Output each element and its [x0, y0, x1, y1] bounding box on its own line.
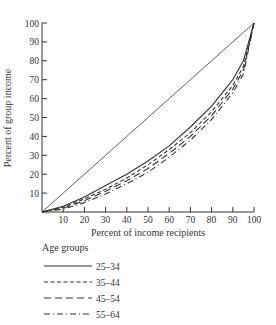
y-tick-label: 10	[30, 189, 40, 199]
legend-title: Age groups	[42, 242, 88, 253]
legend-label: 55–64	[96, 310, 120, 320]
lorenz-curves	[42, 23, 254, 212]
x-tick-label: 40	[122, 215, 132, 225]
legend: Age groups 25–3435–4445–5455–64	[42, 242, 120, 320]
y-tick-label: 70	[30, 75, 40, 85]
x-tick-label: 80	[207, 215, 217, 225]
x-tick-label: 10	[58, 215, 68, 225]
y-tick-label: 80	[30, 56, 40, 66]
x-tick-label: 20	[80, 215, 90, 225]
y-tick-label: 20	[30, 170, 40, 180]
y-tick-label: 100	[25, 19, 40, 29]
x-tick-label: 60	[164, 215, 174, 225]
curve-line-of-equality	[42, 23, 254, 212]
x-axis: 102030405060708090100	[42, 207, 261, 225]
x-tick-label: 100	[247, 215, 262, 225]
y-axis: 102030405060708090100	[25, 19, 47, 213]
x-tick-label: 90	[228, 215, 238, 225]
y-tick-label: 40	[30, 132, 40, 142]
y-tick-label: 90	[30, 37, 40, 47]
x-axis-title: Percent of income recipients	[91, 227, 205, 238]
y-axis-title: Percent of group income	[2, 68, 13, 167]
y-tick-label: 30	[30, 151, 40, 161]
lorenz-chart: 102030405060708090100 102030405060708090…	[0, 0, 276, 325]
x-tick-label: 30	[101, 215, 111, 225]
x-tick-label: 50	[143, 215, 153, 225]
legend-label: 45–54	[96, 294, 120, 304]
legend-label: 35–44	[96, 278, 120, 288]
y-tick-label: 50	[30, 113, 40, 123]
legend-label: 25–34	[96, 262, 120, 272]
x-tick-label: 70	[186, 215, 196, 225]
y-tick-label: 60	[30, 94, 40, 104]
